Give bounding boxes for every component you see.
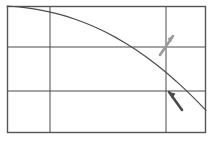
plot-background [7, 6, 206, 133]
plot-area [0, 0, 213, 141]
chart-canvas [0, 0, 213, 141]
